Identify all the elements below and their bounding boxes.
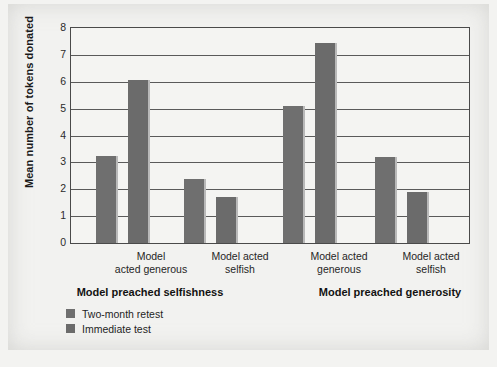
- y-tick-2: 2: [44, 183, 66, 193]
- category-label-2-line1: Model acted: [185, 250, 295, 263]
- group-title-selfishness: Model preached selfishness: [40, 286, 260, 298]
- bar-g2-two-month-retest: [184, 179, 206, 244]
- gridline-7: [71, 55, 469, 56]
- legend-swatch-icon-two-month-retest: [66, 309, 75, 318]
- group-title-generosity: Model preached generosity: [280, 286, 497, 298]
- y-tick-1: 1: [44, 210, 66, 220]
- y-tick-4: 4: [44, 130, 66, 140]
- category-label-2-line2: selfish: [185, 263, 295, 276]
- chart-legend: Two-month retest Immediate test: [66, 306, 163, 336]
- bar-g3-two-month-retest: [283, 106, 305, 243]
- legend-item-two-month-retest: Two-month retest: [66, 306, 163, 321]
- bar-g4-two-month-retest: [375, 157, 397, 243]
- category-label-4-line1: Model acted: [376, 250, 486, 263]
- y-tick-0: 0: [44, 237, 66, 247]
- bar-g1-two-month-retest: [96, 156, 118, 243]
- category-label-4: Model acted selfish: [376, 250, 486, 276]
- legend-label-two-month-retest: Two-month retest: [82, 308, 163, 320]
- y-tick-3: 3: [44, 156, 66, 166]
- chart-figure: Mean number of tokens donated 8 7 6 5 4 …: [0, 0, 497, 367]
- legend-swatch-icon-immediate-test: [66, 324, 75, 333]
- y-tick-8: 8: [44, 22, 66, 32]
- bar-g1-immediate-test: [128, 80, 150, 243]
- legend-label-immediate-test: Immediate test: [82, 323, 151, 335]
- y-tick-6: 6: [44, 76, 66, 86]
- category-label-2: Model acted selfish: [185, 250, 295, 276]
- bar-g4-immediate-test: [407, 192, 429, 243]
- y-axis-tick-labels: 8 7 6 5 4 3 2 1 0: [42, 27, 66, 242]
- y-tick-5: 5: [44, 103, 66, 113]
- y-axis-title: Mean number of tokens donated: [23, 0, 35, 217]
- category-label-4-line2: selfish: [376, 263, 486, 276]
- plot-area: [70, 27, 470, 244]
- bar-g3-immediate-test: [315, 43, 337, 243]
- y-tick-7: 7: [44, 49, 66, 59]
- legend-item-immediate-test: Immediate test: [66, 321, 163, 336]
- bar-g2-immediate-test: [216, 197, 238, 243]
